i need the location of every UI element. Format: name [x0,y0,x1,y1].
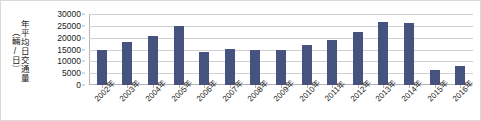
bar-slot [89,14,115,85]
bar-slot [422,14,448,85]
bar-slot [345,14,371,85]
y-axis-tick-label: 15000 [57,45,81,54]
y-axis-tick-label: 0 [76,81,81,90]
bar[interactable] [404,23,414,85]
bar-slot [396,14,422,85]
x-axis-tick-labels: 2002年2003年2004年2005年2006年2007年2008年2009年… [89,85,473,121]
bar-slot [371,14,397,85]
y-axis-title: 年平均日交通量 （輛/日） [3,1,35,101]
x-axis-tick-mark [204,85,205,88]
bar[interactable] [122,42,132,85]
x-axis-tick-mark [332,85,333,88]
bar[interactable] [97,50,107,86]
y-axis-tick-label: 10000 [57,57,81,66]
x-axis-tick-mark [179,85,180,88]
y-axis-tick-label: 5000 [62,69,81,78]
x-axis-tick-mark [255,85,256,88]
y-axis-tick-mark [82,37,85,38]
bar-slot [243,14,269,85]
x-axis-tick-mark [127,85,128,88]
x-axis-tick-mark [230,85,231,88]
x-axis-tick-mark [307,85,308,88]
x-axis-tick-mark [460,85,461,88]
bar[interactable] [276,50,286,86]
bar-chart: 年平均日交通量 （輛/日） 05000100001500020000250003… [0,0,481,121]
y-axis-tick-label: 25000 [57,21,81,30]
x-axis-tick-mark [409,85,410,88]
x-axis-tick-mark [383,85,384,88]
bar[interactable] [174,26,184,85]
x-axis-tick-mark [435,85,436,88]
bar-slot [140,14,166,85]
bar-slot [191,14,217,85]
bar-slot [115,14,141,85]
y-axis-title-line-2: （輛/日） [10,28,19,74]
bar[interactable] [250,50,260,86]
bar-slot [166,14,192,85]
bar-slot [217,14,243,85]
bar-slot [268,14,294,85]
y-axis-tick-mark [82,49,85,50]
y-axis-tick-label: 30000 [57,10,81,19]
y-axis-title-line-1: 年平均日交通量 [19,20,28,83]
y-axis-tick-mark [82,85,85,86]
x-axis-tick-mark [102,85,103,88]
y-axis-tick-mark [82,25,85,26]
y-axis-tick-label: 20000 [57,33,81,42]
y-axis-tick-labels: 050001000015000200002500030000 [41,14,85,85]
bar[interactable] [353,32,363,85]
bar[interactable] [302,45,312,85]
bar-slot [447,14,473,85]
bar[interactable] [225,49,235,85]
bar-slot [319,14,345,85]
bar[interactable] [327,40,337,85]
y-axis-tick-mark [82,73,85,74]
x-axis-tick-mark [358,85,359,88]
bar[interactable] [148,36,158,85]
y-axis-tick-mark [82,61,85,62]
x-axis-tick-mark [153,85,154,88]
x-axis-tick-mark [281,85,282,88]
bar[interactable] [455,66,465,85]
bar[interactable] [378,22,388,85]
bar[interactable] [430,70,440,85]
bar[interactable] [199,52,209,85]
plot-area [89,14,473,85]
bar-slot [294,14,320,85]
y-axis-tick-mark [82,14,85,15]
